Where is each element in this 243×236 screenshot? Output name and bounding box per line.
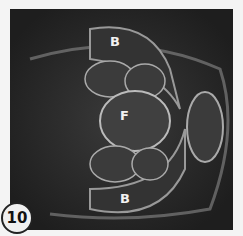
micrograph-panel: B F B bbox=[10, 9, 233, 230]
panel-number-badge: 10 bbox=[1, 202, 33, 234]
label-bract-top: B bbox=[110, 35, 120, 48]
label-bract-bottom: B bbox=[120, 192, 130, 205]
label-floret-center: F bbox=[120, 109, 129, 122]
